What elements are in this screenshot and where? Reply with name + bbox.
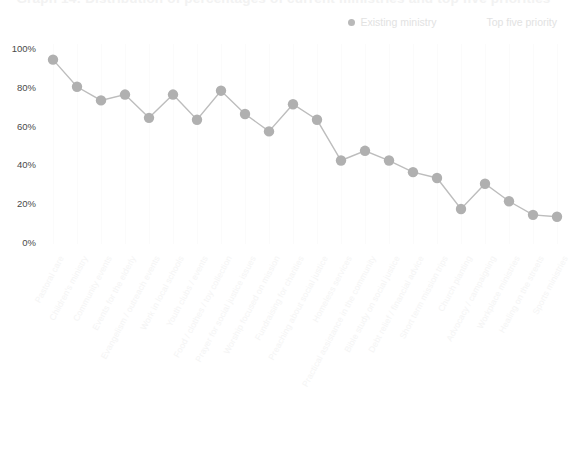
data-point-marker[interactable]: [192, 115, 202, 125]
data-point-marker[interactable]: [432, 173, 442, 183]
y-axis: 0%20%40%60%80%100%: [0, 44, 36, 244]
y-axis-tick-label: 40%: [2, 159, 36, 170]
data-point-marker[interactable]: [216, 85, 226, 95]
legend-dot-icon: [348, 19, 355, 26]
data-point-marker[interactable]: [360, 146, 370, 156]
y-axis-tick-label: 60%: [2, 120, 36, 131]
data-point-marker[interactable]: [552, 212, 562, 222]
legend-label-existing-ministry: Existing ministry: [361, 16, 437, 28]
data-point-marker[interactable]: [72, 82, 82, 92]
legend-label-top-five-priority: Top five priority: [486, 16, 557, 28]
series-line: [53, 60, 557, 217]
y-axis-tick-label: 20%: [2, 198, 36, 209]
y-axis-tick-label: 0%: [2, 237, 36, 248]
x-axis-tick-label: Events for the elderly: [90, 254, 138, 332]
data-point-marker[interactable]: [480, 179, 490, 189]
data-point-marker[interactable]: [336, 155, 346, 165]
legend-entry-top-five-priority[interactable]: Top five priority: [480, 16, 557, 28]
data-point-marker[interactable]: [528, 210, 538, 220]
data-point-marker[interactable]: [408, 167, 418, 177]
data-point-marker[interactable]: [384, 155, 394, 165]
chart-title: Graph 14: Distribution of percentages of…: [0, 0, 567, 6]
chart-legend: Existing ministry Top five priority: [348, 16, 557, 28]
legend-entry-existing-ministry[interactable]: Existing ministry: [348, 16, 437, 28]
y-axis-tick-label: 100%: [2, 43, 36, 54]
x-axis: Pastoral careChildren's ministryCommunit…: [41, 248, 557, 448]
plot-area: [41, 44, 557, 244]
data-point-marker[interactable]: [456, 204, 466, 214]
y-axis-tick-label: 80%: [2, 81, 36, 92]
data-point-marker[interactable]: [120, 89, 130, 99]
data-point-marker[interactable]: [96, 95, 106, 105]
data-point-marker[interactable]: [504, 196, 514, 206]
series-existing-ministry: [41, 44, 557, 244]
data-point-marker[interactable]: [288, 99, 298, 109]
data-point-marker[interactable]: [312, 115, 322, 125]
data-point-marker[interactable]: [264, 126, 274, 136]
data-point-marker[interactable]: [144, 113, 154, 123]
data-point-marker[interactable]: [168, 89, 178, 99]
data-point-marker[interactable]: [48, 54, 58, 64]
data-point-marker[interactable]: [240, 109, 250, 119]
